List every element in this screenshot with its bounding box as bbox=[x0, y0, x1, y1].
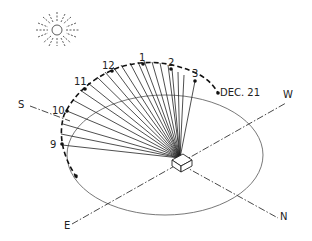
hour-label-11: 11 bbox=[74, 76, 87, 87]
sun-icon bbox=[36, 12, 79, 46]
north-axis bbox=[182, 165, 278, 218]
hour-label-3: 3 bbox=[192, 68, 198, 79]
hour-label-2: 2 bbox=[168, 57, 174, 68]
arc-date-label: DEC. 21 bbox=[220, 87, 260, 98]
hour-label-1: 1 bbox=[139, 52, 145, 63]
west-label: W bbox=[283, 89, 293, 100]
south-label: S bbox=[18, 99, 24, 110]
hour-label-12: 12 bbox=[102, 60, 115, 71]
north-label: N bbox=[280, 211, 287, 222]
hour-label-10: 10 bbox=[52, 105, 65, 116]
east-label: E bbox=[64, 220, 70, 231]
hour-label-9: 9 bbox=[50, 139, 56, 150]
sun-path-diagram: S W E N DEC. 21 9 10 11 12 1 2 3 bbox=[0, 0, 312, 241]
